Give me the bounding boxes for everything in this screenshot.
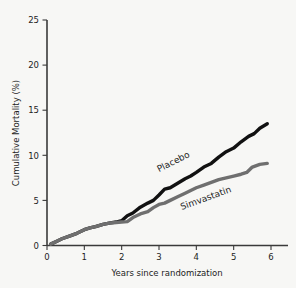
y-tick-label: 5 <box>34 196 39 206</box>
y-tick-label: 25 <box>28 15 39 25</box>
y-axis-title: Cumulative Mortality (%) <box>11 80 21 186</box>
chart-figure: 0510152025 0123456 PlaceboSimvastatin Ye… <box>0 0 296 288</box>
x-tick-label: 6 <box>268 252 273 262</box>
x-axis-title: Years since randomization <box>110 268 222 278</box>
x-tick-label: 4 <box>194 252 199 262</box>
x-tick-label: 5 <box>231 252 236 262</box>
x-tick-label: 0 <box>44 252 49 262</box>
y-tick-label: 15 <box>28 105 39 115</box>
x-tick-label: 2 <box>119 252 124 262</box>
x-tick-label: 3 <box>156 252 161 262</box>
y-tick-label: 0 <box>34 241 39 251</box>
y-tick-label: 10 <box>28 151 39 161</box>
x-tick-label: 1 <box>82 252 87 262</box>
cumulative-mortality-chart: 0510152025 0123456 PlaceboSimvastatin Ye… <box>0 0 296 288</box>
y-tick-label: 20 <box>28 60 39 70</box>
